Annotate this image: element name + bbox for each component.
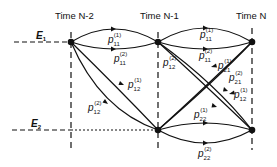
label-p12-2-a: p12(2) — [87, 100, 102, 115]
time-label-n: Time N — [236, 10, 266, 21]
time-label-n-1: Time N-1 — [140, 10, 179, 21]
label-p22-1-b: p22(1) — [193, 107, 208, 122]
label-p12-2-b: p12(2) — [162, 55, 177, 70]
node-e1-n-1 — [155, 39, 162, 46]
label-p12-1-b: p12(1) — [233, 87, 248, 102]
label-p11-1-b: p11(1) — [199, 27, 213, 42]
node-e1-n-2 — [68, 39, 75, 46]
time-label-n-2: Time N-2 — [55, 10, 94, 21]
node-e2-n — [249, 127, 256, 134]
state-label-e1: E1 — [36, 30, 47, 42]
edge-p22-2-b — [158, 130, 252, 143]
node-e1-n — [249, 39, 256, 46]
label-p12-1-a: p12(1) — [127, 77, 142, 92]
markov-transition-diagram: Time N-2 Time N-1 Time N E1 E2 p11(1) p1… — [0, 0, 277, 167]
nodes — [68, 39, 256, 134]
label-p22-2-b: p22(2) — [197, 146, 212, 161]
label-p11-2-a: p11(2) — [113, 51, 127, 66]
transitions-second-step — [158, 28, 252, 143]
label-p11-1-a: p11(1) — [107, 32, 121, 47]
label-p11-2-b: p11(2) — [198, 48, 212, 63]
state-label-e2: E2 — [31, 118, 42, 130]
label-p21-2-b: p21(2) — [228, 70, 243, 85]
node-e2-n-1 — [155, 127, 162, 134]
